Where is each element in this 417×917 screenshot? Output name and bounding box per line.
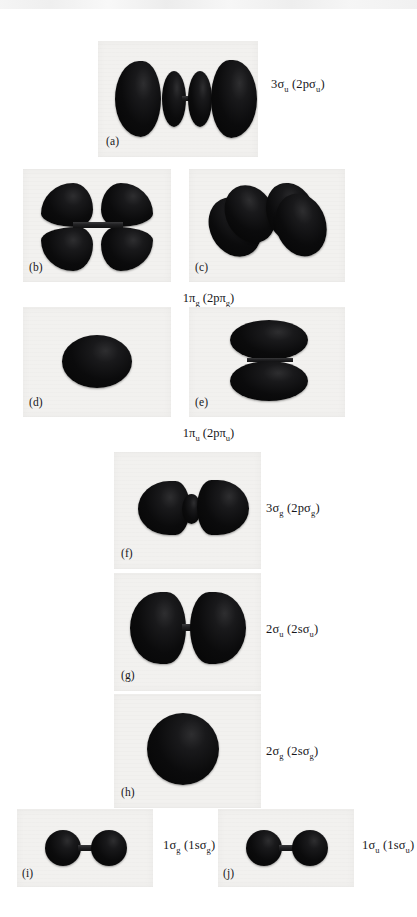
orbital-lobe xyxy=(230,320,308,360)
internuclear-axis xyxy=(73,222,123,228)
orbital-label-h: 2σg (2sσg) xyxy=(266,744,318,759)
orbital-label-i: 1σg (1sσg) xyxy=(163,838,215,853)
orbital-lobe xyxy=(190,592,246,664)
orbital-lobe xyxy=(91,830,127,866)
orbital-lobe xyxy=(197,480,249,535)
orbital-plate-g: (g) xyxy=(114,573,261,691)
orbital-lobe xyxy=(292,830,328,866)
orbital-lobe xyxy=(188,71,212,127)
orbital-lobe xyxy=(45,830,81,866)
panel-letter-f: (f) xyxy=(121,547,133,559)
orbital-lobe xyxy=(115,61,161,137)
orbital-lobe xyxy=(130,592,186,664)
orbital-plate-h: (h) xyxy=(114,694,261,808)
molecular-orbital-figure: (a) 3σu (2pσu) (b) (c) 1πg (2pπg) (d) (e… xyxy=(0,0,417,917)
orbital-label-f: 3σg (2pσg) xyxy=(266,501,320,516)
orbital-lobe xyxy=(41,227,93,271)
scan-artifact-streak xyxy=(0,0,417,9)
orbital-label-j: 1σu (1sσu) xyxy=(362,838,414,853)
panel-letter-e: (e) xyxy=(195,396,208,408)
group-label-pi-g: 1πg (2pπg) xyxy=(0,291,417,306)
panel-letter-g: (g) xyxy=(121,669,135,681)
orbital-lobe xyxy=(101,227,153,271)
panel-letter-j: (j) xyxy=(223,867,234,879)
orbital-plate-e: (e) xyxy=(189,307,345,417)
panel-letter-b: (b) xyxy=(29,261,43,273)
orbital-lobe xyxy=(246,830,282,866)
panel-letter-i: (i) xyxy=(22,867,33,879)
orbital-plate-i: (i) xyxy=(17,809,153,887)
orbital-lobe xyxy=(101,183,153,227)
orbital-label-a: 3σu (2pσu) xyxy=(271,77,325,92)
orbital-plate-f: (f) xyxy=(114,452,261,569)
panel-letter-c: (c) xyxy=(195,261,208,273)
orbital-label-g: 2σu (2sσu) xyxy=(266,622,318,637)
orbital-lobe xyxy=(62,335,132,388)
panel-letter-h: (h) xyxy=(121,786,135,798)
orbital-plate-a: (a) xyxy=(98,41,258,157)
orbital-lobe xyxy=(211,60,257,138)
orbital-lobe xyxy=(41,183,93,227)
orbital-lobe xyxy=(230,361,308,401)
orbital-plate-b: (b) xyxy=(23,169,171,282)
panel-letter-d: (d) xyxy=(29,396,43,408)
orbital-plate-j: (j) xyxy=(218,809,354,887)
group-label-pi-u: 1πu (2pπu) xyxy=(0,426,417,441)
orbital-plate-c: (c) xyxy=(189,169,345,282)
panel-letter-a: (a) xyxy=(106,135,119,147)
orbital-plate-d: (d) xyxy=(23,307,171,417)
orbital-lobe xyxy=(147,713,219,785)
